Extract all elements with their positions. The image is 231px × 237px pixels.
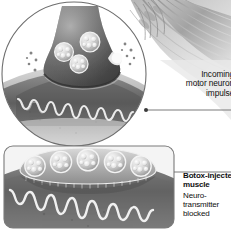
impulse-line-3: impulse: [186, 89, 231, 98]
callout-incoming-impulse: Incoming motor neuron impulse: [186, 70, 231, 98]
botox-title-line-2: muscle: [183, 181, 231, 190]
callout-botox-injected-muscle: Botox-injected muscle Neuro- transmitter…: [183, 172, 231, 219]
figure-canvas: Incoming motor neuron impulse Botox-inje…: [0, 0, 231, 237]
botox-inset-panel: [0, 146, 178, 230]
botox-body-line-3: blocked: [183, 210, 231, 219]
leader-line-impulse: [144, 108, 231, 112]
